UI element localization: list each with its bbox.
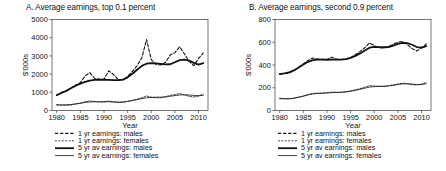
x-tick-label: 2005 — [390, 113, 406, 122]
series-line — [57, 95, 204, 105]
y-tick-label: 600 — [258, 38, 270, 47]
x-tick-label: 1980 — [49, 113, 65, 122]
x-tick-label: 2010 — [413, 113, 429, 122]
x-tick-label: 2005 — [167, 113, 183, 122]
y-tick-label: 200 — [258, 83, 270, 92]
x-tick-label: 2000 — [143, 113, 159, 122]
y-tick-label: 2000 — [31, 70, 47, 79]
y-axis-title: $'000s — [244, 54, 253, 76]
legend-label: 5 yr av earnings: females — [301, 151, 382, 160]
panel-a-plot: 0100020003000400050001980198519901995200… — [0, 0, 223, 171]
x-tick-label: 2000 — [366, 113, 382, 122]
y-tick-label: 400 — [258, 61, 270, 70]
series-line — [57, 60, 204, 96]
y-tick-label: 800 — [258, 15, 270, 24]
x-tick-label: 1990 — [319, 113, 335, 122]
x-tick-label: 1980 — [272, 113, 288, 122]
y-tick-label: 1000 — [31, 88, 47, 97]
y-tick-label: 3000 — [31, 52, 47, 61]
x-tick-label: 1985 — [72, 113, 88, 122]
panel-b-plot: 0200400600800198019851990199520002005201… — [223, 0, 446, 171]
y-tick-label: 0 — [267, 106, 271, 115]
series-line — [280, 43, 427, 74]
series-line — [57, 40, 204, 96]
x-tick-label: 2010 — [190, 113, 206, 122]
legend-label: 5 yr av earnings: females — [78, 151, 159, 160]
y-axis-title: $'000s — [21, 54, 30, 76]
chart-panel-b: B. Average earnings, second 0.9 percent … — [223, 0, 446, 171]
x-tick-label: 1990 — [96, 113, 112, 122]
y-tick-label: 5000 — [31, 15, 47, 24]
y-tick-label: 4000 — [31, 33, 47, 42]
y-tick-label: 0 — [44, 106, 48, 115]
series-line — [280, 84, 427, 99]
figure-container: A. Average earnings, top 0.1 percent 010… — [0, 0, 446, 171]
chart-panel-a: A. Average earnings, top 0.1 percent 010… — [0, 0, 223, 171]
x-tick-label: 1985 — [295, 113, 311, 122]
